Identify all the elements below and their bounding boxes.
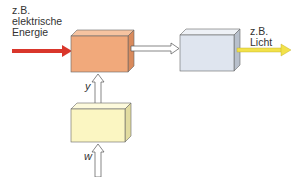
input-label-line-3: Energie	[12, 27, 62, 38]
internal-flow-arrow	[131, 43, 179, 54]
reference-input-label: w	[84, 150, 92, 162]
input-label: z.B. elektrische Energie	[12, 5, 62, 38]
reference-input-arrow	[92, 144, 104, 177]
process-block	[180, 29, 240, 71]
input-energy-arrow	[12, 45, 72, 57]
output-label: z.B. Licht	[250, 26, 272, 48]
control-signal-label: y	[85, 80, 91, 92]
actuator-block	[71, 30, 134, 72]
output-label-line-2: Licht	[250, 37, 272, 48]
controller-block	[71, 103, 131, 142]
